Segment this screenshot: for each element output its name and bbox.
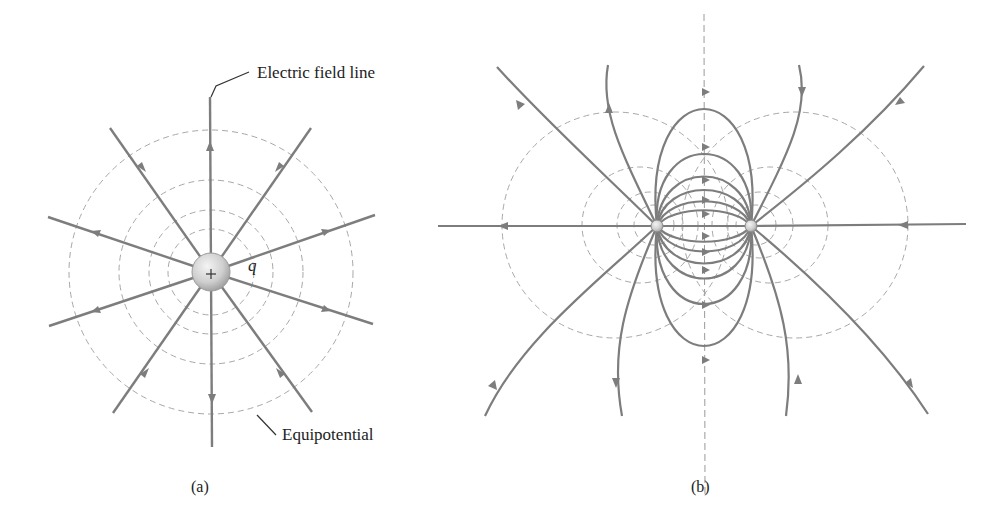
caption-a: (a) [191, 478, 209, 496]
panel-b-dipole [438, 14, 966, 495]
arrow-icon [702, 232, 710, 240]
arrow-icon [605, 103, 613, 113]
caption-b: (b) [691, 478, 710, 496]
right-charge [745, 220, 757, 232]
arrow-icon [321, 305, 331, 312]
field-line [497, 67, 657, 226]
figure-canvas [0, 0, 1003, 511]
arrow-icon [321, 229, 331, 236]
arrow-icon [702, 266, 710, 274]
arrow-icon [208, 394, 216, 404]
field-line [211, 272, 312, 412]
arrow-icon [91, 306, 101, 313]
arrow-icon [702, 248, 710, 256]
arrow-icon [702, 301, 710, 309]
field-line [48, 217, 211, 272]
equipotential-label: Equipotential [282, 425, 374, 445]
field-line [751, 65, 802, 226]
field-line [485, 226, 657, 416]
arrow-icon [498, 222, 508, 230]
field-line [618, 226, 657, 416]
field-line [751, 66, 924, 226]
arrow-icon [91, 230, 101, 237]
field-line [113, 272, 211, 413]
field-arrows [488, 87, 913, 390]
left-charge [651, 220, 663, 232]
field-line-leader [211, 72, 249, 97]
field-line [751, 224, 966, 226]
field-line [49, 272, 211, 326]
arrow-icon [206, 141, 214, 151]
arrow-icon [488, 380, 497, 390]
arrow-icon [898, 221, 908, 229]
arrow-icon [516, 100, 525, 110]
electric-field-line-label: Electric field line [257, 63, 375, 83]
field-line [211, 128, 311, 272]
arrow-icon [798, 87, 806, 97]
charge-q-label: q [248, 256, 257, 276]
arrow-icon [702, 88, 710, 96]
arrow-icon [794, 374, 802, 384]
equipotential-leader [257, 415, 276, 435]
panel-a-point-charge [48, 72, 375, 447]
field-line [110, 128, 211, 272]
field-line [210, 97, 211, 272]
field-line [751, 226, 928, 414]
arrow-icon [702, 356, 710, 364]
arrow-icon [702, 143, 710, 151]
field-line [211, 272, 212, 447]
arrow-icon [702, 196, 710, 204]
